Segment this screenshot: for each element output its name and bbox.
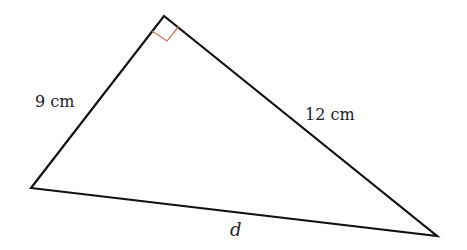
left-side-label: 9 cm xyxy=(35,92,74,111)
right-side-label: 12 cm xyxy=(305,105,355,124)
bottom-side-label: d xyxy=(230,219,242,240)
triangle-diagram: 9 cm 12 cm d xyxy=(0,0,467,250)
right-angle-marker xyxy=(152,26,179,41)
triangle xyxy=(31,16,437,236)
